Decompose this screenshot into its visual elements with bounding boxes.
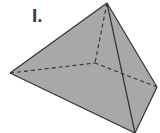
figure-label: I. [32, 6, 43, 26]
tetrahedron-figure [0, 0, 160, 133]
tetrahedron-svg [0, 0, 160, 133]
